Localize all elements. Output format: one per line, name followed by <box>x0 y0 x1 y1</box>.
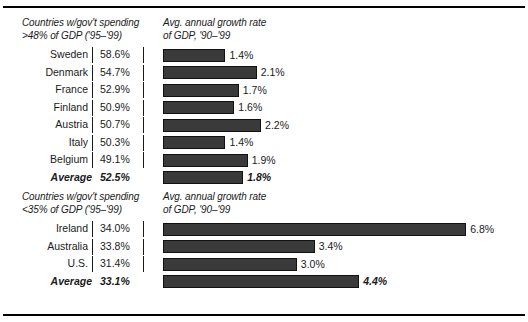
growth-value-label: 1.6% <box>238 101 262 114</box>
growth-bar <box>163 119 261 132</box>
column-divider <box>92 221 93 237</box>
header-right-label: Avg. annual growth rate of GDP, '90–'99 <box>163 190 363 216</box>
bar-area: 1.8% <box>163 171 528 184</box>
spending-value: 58.6% <box>100 46 140 64</box>
growth-value-label: 3.0% <box>301 258 325 271</box>
panel-low-spending: Countries w/gov't spending <35% of GDP (… <box>0 190 528 290</box>
spending-value: 52.5% <box>100 169 140 187</box>
bar-area: 2.2% <box>163 119 528 132</box>
top-rule <box>3 6 525 8</box>
country-row: Sweden58.6%1.4% <box>0 46 528 64</box>
spending-value: 34.0% <box>100 220 140 238</box>
country-row: Italy50.3%1.4% <box>0 134 528 152</box>
column-divider <box>92 152 93 168</box>
average-row: Average52.5%1.8% <box>0 169 528 187</box>
growth-value-label: 2.2% <box>265 119 289 132</box>
column-divider <box>143 65 144 81</box>
rows-container: Ireland34.0%6.8%Australia33.8%3.4%U.S.31… <box>0 220 528 290</box>
column-divider <box>92 100 93 116</box>
growth-value-label: 1.4% <box>229 49 253 62</box>
country-label: Average <box>0 273 92 291</box>
country-label: France <box>0 81 88 99</box>
country-label: Australia <box>0 238 88 256</box>
column-divider <box>92 47 93 63</box>
column-divider <box>143 256 144 272</box>
panel-high-spending: Countries w/gov't spending >48% of GDP (… <box>0 16 528 186</box>
header-left-label: Countries w/gov't spending <35% of GDP (… <box>22 190 172 216</box>
spending-value: 50.3% <box>100 134 140 152</box>
spending-value: 50.7% <box>100 116 140 134</box>
growth-bar <box>163 136 225 149</box>
bar-area: 3.4% <box>163 240 528 253</box>
country-label: Average <box>0 169 92 187</box>
growth-bar <box>163 240 315 253</box>
panel-header: Countries w/gov't spending <35% of GDP (… <box>0 190 528 220</box>
column-divider <box>143 100 144 116</box>
country-label: Denmark <box>0 64 88 82</box>
country-label: Sweden <box>0 46 88 64</box>
growth-value-label: 1.4% <box>229 136 253 149</box>
column-divider <box>92 65 93 81</box>
growth-bar <box>163 101 234 114</box>
country-row: Finland50.9%1.6% <box>0 99 528 117</box>
column-divider <box>143 135 144 151</box>
bar-area: 2.1% <box>163 66 528 79</box>
spending-value: 49.1% <box>100 151 140 169</box>
spending-value: 50.9% <box>100 99 140 117</box>
header-left-label: Countries w/gov't spending >48% of GDP (… <box>22 16 172 42</box>
growth-bar <box>163 275 359 288</box>
country-label: Finland <box>0 99 88 117</box>
growth-bar <box>163 258 297 271</box>
growth-value-label: 3.4% <box>319 240 343 253</box>
bar-area: 4.4% <box>163 275 528 288</box>
column-divider <box>143 152 144 168</box>
bar-area: 1.7% <box>163 84 528 97</box>
growth-bar <box>163 49 225 62</box>
column-divider <box>92 117 93 133</box>
bar-area: 1.4% <box>163 136 528 149</box>
country-row: Austria50.7%2.2% <box>0 116 528 134</box>
spending-value: 54.7% <box>100 64 140 82</box>
growth-value-label: 6.8% <box>470 223 494 236</box>
chart-figure: Countries w/gov't spending >48% of GDP (… <box>0 0 528 322</box>
bottom-rule <box>3 314 525 316</box>
column-divider <box>92 82 93 98</box>
growth-value-label: 1.9% <box>252 154 276 167</box>
spending-value: 52.9% <box>100 81 140 99</box>
country-row: U.S.31.4%3.0% <box>0 255 528 273</box>
bar-area: 1.9% <box>163 154 528 167</box>
country-label: Belgium <box>0 151 88 169</box>
growth-value-label: 4.4% <box>363 275 387 288</box>
growth-bar <box>163 84 239 97</box>
column-divider <box>143 47 144 63</box>
country-row: Belgium49.1%1.9% <box>0 151 528 169</box>
growth-bar <box>163 223 466 236</box>
column-divider <box>92 135 93 151</box>
average-row: Average33.1%4.4% <box>0 273 528 291</box>
panel-header: Countries w/gov't spending >48% of GDP (… <box>0 16 528 46</box>
bar-area: 6.8% <box>163 223 528 236</box>
rows-container: Sweden58.6%1.4%Denmark54.7%2.1%France52.… <box>0 46 528 186</box>
column-divider <box>143 239 144 255</box>
growth-bar <box>163 171 243 184</box>
spending-value: 31.4% <box>100 255 140 273</box>
country-row: France52.9%1.7% <box>0 81 528 99</box>
column-divider <box>92 256 93 272</box>
growth-bar <box>163 66 257 79</box>
growth-bar <box>163 154 248 167</box>
country-label: U.S. <box>0 255 88 273</box>
column-divider <box>143 221 144 237</box>
country-label: Ireland <box>0 220 88 238</box>
bar-area: 3.0% <box>163 258 528 271</box>
column-divider <box>143 117 144 133</box>
country-row: Ireland34.0%6.8% <box>0 220 528 238</box>
growth-value-label: 1.8% <box>247 171 271 184</box>
country-row: Denmark54.7%2.1% <box>0 64 528 82</box>
bar-area: 1.4% <box>163 49 528 62</box>
spending-value: 33.8% <box>100 238 140 256</box>
country-row: Australia33.8%3.4% <box>0 238 528 256</box>
country-label: Austria <box>0 116 88 134</box>
column-divider <box>143 82 144 98</box>
country-label: Italy <box>0 134 88 152</box>
column-divider <box>92 239 93 255</box>
